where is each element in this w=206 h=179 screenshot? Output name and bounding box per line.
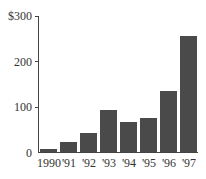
y-tick — [35, 61, 39, 62]
bar — [140, 118, 157, 152]
y-tick-label: $300 — [2, 9, 32, 24]
y-axis — [38, 16, 39, 153]
bar-chart: $300 200 100 0 1990'91'92'93'94'95'96'97 — [0, 0, 206, 179]
y-tick — [35, 107, 39, 108]
bar — [40, 149, 57, 152]
bar — [120, 122, 137, 152]
bar — [180, 36, 197, 152]
y-tick-label: 100 — [2, 100, 32, 115]
y-tick-label: 200 — [2, 55, 32, 70]
x-axis — [38, 152, 198, 153]
bar — [80, 133, 97, 152]
bar — [160, 91, 177, 152]
y-tick-label: 0 — [2, 146, 32, 161]
bar — [100, 110, 117, 152]
x-tick-label: '97 — [177, 156, 201, 171]
bar — [60, 142, 77, 152]
y-tick — [35, 16, 39, 17]
